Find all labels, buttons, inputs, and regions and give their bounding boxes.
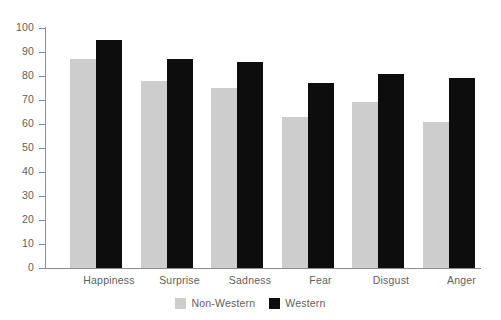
bar-fear-western — [308, 83, 334, 268]
y-axis-tick-label: 50 — [0, 141, 34, 154]
legend-swatch-icon — [175, 298, 186, 309]
bar-anger-western — [449, 78, 475, 268]
bar-group — [70, 28, 122, 268]
legend-swatch-icon — [269, 298, 280, 309]
bar-group — [211, 28, 263, 268]
y-axis-tick-mark — [39, 268, 45, 269]
bar-surprise-non-western — [141, 81, 167, 268]
y-axis-tick-label: 30 — [0, 189, 34, 202]
y-axis-tick-label: 80 — [0, 69, 34, 82]
y-axis-tick-mark — [39, 100, 45, 101]
bar-group — [423, 28, 475, 268]
y-axis-tick-label: 70 — [0, 93, 34, 106]
plot-area — [46, 28, 480, 268]
legend-label: Western — [285, 297, 325, 310]
y-axis-tick-label: 100 — [0, 21, 34, 34]
bar-disgust-non-western — [352, 102, 378, 268]
y-axis-tick-mark — [39, 124, 45, 125]
legend-item-non-western: Non-Western — [175, 297, 255, 310]
x-axis-spine — [45, 268, 481, 269]
y-axis-tick-mark — [39, 244, 45, 245]
bar-group — [352, 28, 404, 268]
y-axis-tick-mark — [39, 172, 45, 173]
bar-group — [141, 28, 193, 268]
bar-disgust-western — [378, 74, 404, 268]
bar-happiness-western — [96, 40, 122, 268]
y-axis-tick-label: 60 — [0, 117, 34, 130]
y-axis-tick-mark — [39, 52, 45, 53]
y-axis-tick-label: 10 — [0, 237, 34, 250]
bar-chart: 0102030405060708090100 HappinessSurprise… — [0, 0, 501, 320]
legend-item-western: Western — [269, 297, 325, 310]
y-axis-tick-mark — [39, 220, 45, 221]
bar-anger-non-western — [423, 122, 449, 268]
bar-sadness-non-western — [211, 88, 237, 268]
bar-happiness-non-western — [70, 59, 96, 268]
y-axis-tick-label: 40 — [0, 165, 34, 178]
y-axis-tick-label: 20 — [0, 213, 34, 226]
y-axis-tick-label: 90 — [0, 45, 34, 58]
bar-group — [282, 28, 334, 268]
y-axis-tick-mark — [39, 148, 45, 149]
y-axis-tick-mark — [39, 76, 45, 77]
y-axis-tick-mark — [39, 196, 45, 197]
bar-fear-non-western — [282, 117, 308, 268]
chart-legend: Non-WesternWestern — [0, 297, 501, 310]
x-axis-label-anger: Anger — [404, 273, 501, 287]
bar-surprise-western — [167, 59, 193, 268]
bar-sadness-western — [237, 62, 263, 268]
y-axis-tick-mark — [39, 28, 45, 29]
legend-label: Non-Western — [191, 297, 255, 310]
y-axis-tick-label: 0 — [0, 261, 34, 274]
